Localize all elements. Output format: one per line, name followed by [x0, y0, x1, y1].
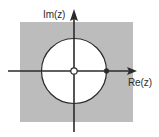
- origin-marker-icon: [71, 68, 77, 74]
- complex-plane-figure: Im(z) Re(z): [0, 0, 159, 137]
- complex-plane-canvas: [0, 0, 159, 137]
- imaginary-axis-label: Im(z): [43, 9, 65, 20]
- real-axis-label: Re(z): [128, 77, 152, 88]
- circle-real-axis-intersection-marker-icon: [104, 69, 109, 74]
